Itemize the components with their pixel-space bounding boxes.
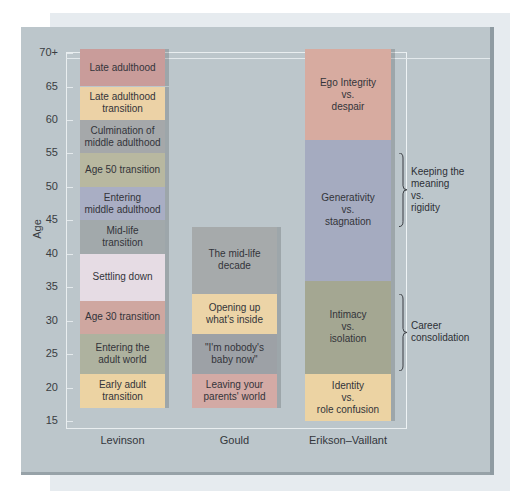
stage-block: Leaving your parents' world xyxy=(192,374,277,407)
y-tick-mark xyxy=(67,87,73,88)
y-tick-mark xyxy=(67,153,73,154)
stage-label: Culmination of middle adulthood xyxy=(82,125,162,149)
y-tick-label: 55 xyxy=(28,146,58,158)
bracket-annotation: Career consolidation xyxy=(411,320,469,344)
stage-block: Entering middle adulthood xyxy=(80,187,165,220)
stage-block: Identity vs. role confusion xyxy=(305,374,391,421)
stage-label: Late adulthood transition xyxy=(87,91,157,115)
stage-label: Intimacy vs. isolation xyxy=(327,309,368,345)
y-tick-mark xyxy=(67,287,73,288)
y-tick-mark xyxy=(67,254,73,255)
stage-label: Entering the adult world xyxy=(94,342,152,366)
stage-block: Late adulthood transition xyxy=(80,87,165,120)
column-label: Erikson–Vaillant xyxy=(278,434,418,446)
y-tick-label: 20 xyxy=(28,381,58,393)
y-axis-title: Age xyxy=(31,219,43,239)
y-tick-mark xyxy=(67,220,73,221)
stage-label: The mid-life decade xyxy=(206,248,262,272)
stage-block: Entering the adult world xyxy=(80,334,165,374)
stage-label: Leaving your parents' world xyxy=(202,379,268,403)
stage-block: Settling down xyxy=(80,254,165,301)
stage-block: Late adulthood xyxy=(80,49,165,86)
y-tick-label: 35 xyxy=(28,280,58,292)
y-tick-label: 40 xyxy=(28,247,58,259)
y-tick-label: 70+ xyxy=(28,46,58,58)
y-tick-mark xyxy=(67,321,73,322)
stage-label: "I'm nobody's baby now" xyxy=(203,342,266,366)
stage-block: Mid-life transition xyxy=(80,220,165,253)
y-tick-mark xyxy=(67,354,73,355)
y-tick-label: 50 xyxy=(28,180,58,192)
y-tick-label: 30 xyxy=(28,314,58,326)
stage-label: Early adult transition xyxy=(97,379,148,403)
y-tick-mark xyxy=(67,53,73,54)
curly-brace-icon xyxy=(398,294,408,371)
stage-block: Generativity vs. stagnation xyxy=(305,140,391,280)
stage-label: Age 30 transition xyxy=(83,311,162,323)
curly-brace-icon xyxy=(398,153,408,227)
stage-label: Identity vs. role confusion xyxy=(315,380,381,416)
y-tick-label: 15 xyxy=(28,414,58,426)
stage-label: Opening up what's inside xyxy=(204,302,265,326)
y-tick-label: 25 xyxy=(28,347,58,359)
stage-block: "I'm nobody's baby now" xyxy=(192,334,277,374)
y-tick-mark xyxy=(67,388,73,389)
y-tick-mark xyxy=(67,421,73,422)
y-tick-mark xyxy=(67,120,73,121)
y-tick-label: 60 xyxy=(28,113,58,125)
stage-label: Late adulthood xyxy=(87,62,157,74)
stage-block: Intimacy vs. isolation xyxy=(305,281,391,375)
stage-label: Settling down xyxy=(90,271,154,283)
stage-block: Culmination of middle adulthood xyxy=(80,120,165,153)
stage-block: Age 50 transition xyxy=(80,153,165,186)
stage-label: Age 50 transition xyxy=(83,164,162,176)
y-tick-label: 65 xyxy=(28,80,58,92)
stage-block: Ego Integrity vs. despair xyxy=(305,49,391,140)
stage-block: Opening up what's inside xyxy=(192,294,277,334)
y-tick-mark xyxy=(67,187,73,188)
stage-label: Mid-life transition xyxy=(100,225,145,249)
stage-block: Early adult transition xyxy=(80,374,165,407)
stage-block: The mid-life decade xyxy=(192,227,277,294)
stage-label: Entering middle adulthood xyxy=(82,192,162,216)
bracket-annotation: Keeping the meaning vs. rigidity xyxy=(411,166,464,214)
stage-block: Age 30 transition xyxy=(80,301,165,334)
stage-label: Generativity vs. stagnation xyxy=(319,192,376,228)
stage-label: Ego Integrity vs. despair xyxy=(318,77,378,113)
